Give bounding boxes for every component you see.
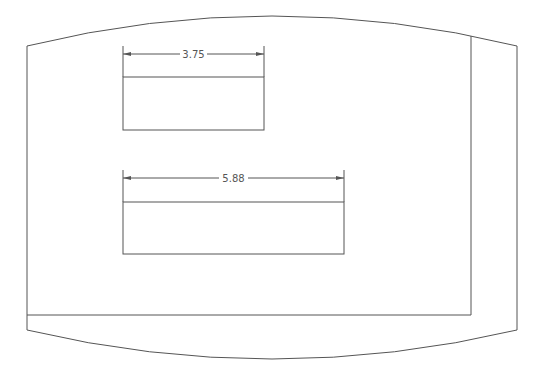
dim1-arrow-right-icon <box>256 52 264 56</box>
dim2-arrow-left-icon <box>123 176 131 180</box>
dim2-arrow-right-icon <box>336 176 344 180</box>
outer-outline-bottom-arc <box>27 330 517 359</box>
dim1-label: 3.75 <box>182 49 204 60</box>
drawing-canvas: 3.75 5.88 <box>0 0 538 368</box>
dim1-arrow-left-icon <box>123 52 131 56</box>
technical-drawing: 3.75 5.88 <box>0 0 538 368</box>
outer-outline-top-arc <box>27 16 517 46</box>
lower-rectangle <box>123 202 344 254</box>
dim2-label: 5.88 <box>222 173 244 184</box>
upper-rectangle <box>123 77 264 130</box>
